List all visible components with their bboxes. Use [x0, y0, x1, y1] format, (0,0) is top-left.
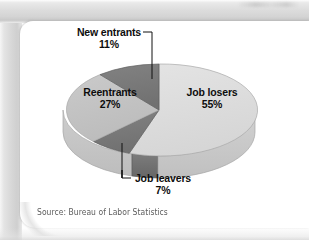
slice-label-reentrants: Reentrants 27% [62, 86, 158, 110]
slice-label-job-leavers-pct: 7% [115, 184, 211, 196]
slice-label-reentrants-name: Reentrants [83, 86, 136, 98]
slice-label-job-leavers: Job leavers 7% [115, 172, 211, 196]
source-note: Source: Bureau of Labor Statistics [37, 207, 168, 217]
slice-label-new-entrants-name: New entrants [77, 26, 141, 38]
slice-label-job-losers: Job losers 55% [170, 86, 254, 110]
slice-label-new-entrants: New entrants 11% [57, 26, 161, 50]
page-bottom-shadow [0, 228, 309, 240]
slice-label-reentrants-pct: 27% [62, 98, 158, 110]
slice-label-new-entrants-pct: 11% [57, 38, 161, 50]
scanned-page: New entrants 11% Reentrants 27% Job lose… [0, 0, 309, 240]
slice-label-job-losers-name: Job losers [186, 86, 237, 98]
pie-chart: New entrants 11% Reentrants 27% Job lose… [0, 0, 309, 240]
slice-label-job-losers-pct: 55% [170, 98, 254, 110]
slice-label-job-leavers-name: Job leavers [135, 172, 191, 184]
